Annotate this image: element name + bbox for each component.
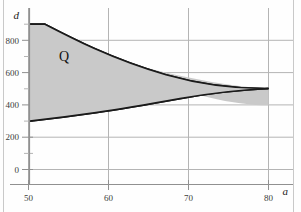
ytick-label-400: 400 bbox=[6, 100, 20, 110]
chart-plot-area: 800 600 400 200 0 50 60 70 80 d a Q bbox=[0, 0, 301, 212]
ytick-label-0: 0 bbox=[15, 165, 20, 175]
x-axis-label: a bbox=[283, 185, 289, 197]
ytick-label-200: 200 bbox=[6, 132, 20, 142]
region-label-q: Q bbox=[59, 49, 69, 64]
xtick-label-80: 80 bbox=[264, 193, 274, 203]
ytick-label-600: 600 bbox=[6, 68, 20, 78]
ytick-label-800: 800 bbox=[6, 36, 20, 46]
xtick-label-70: 70 bbox=[184, 193, 194, 203]
chart-figure: 800 600 400 200 0 50 60 70 80 d a Q bbox=[0, 0, 301, 212]
xtick-label-60: 60 bbox=[104, 193, 114, 203]
y-axis-label: d bbox=[14, 9, 20, 21]
xtick-label-50: 50 bbox=[24, 193, 34, 203]
